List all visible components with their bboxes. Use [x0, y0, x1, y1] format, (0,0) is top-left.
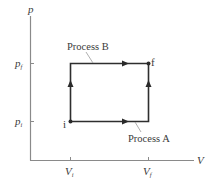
point-i-marker: [69, 120, 73, 124]
process-a-arrow-up-icon: [146, 80, 152, 87]
point-f-label: f: [151, 56, 155, 68]
x-tick-vi-label: Vi: [65, 165, 74, 178]
y-tick-pf-label: pf: [14, 57, 24, 70]
process-a-path: [71, 64, 152, 125]
process-b-arrow-up-icon: [68, 80, 74, 87]
process-a-arrow-right-icon: [122, 119, 129, 125]
x-tick-vf-label: Vf: [143, 165, 153, 178]
process-b-label: Process B: [67, 41, 109, 52]
y-tick-pi-label: pi: [14, 115, 23, 128]
y-axis-label: p: [27, 3, 34, 15]
pv-diagram: p V pf pi Vi Vf i f Process B Process A: [0, 0, 213, 187]
point-i-label: i: [63, 118, 66, 130]
process-b-arrow-right-icon: [122, 61, 129, 67]
process-a-leader: [135, 122, 141, 132]
point-f-marker: [147, 62, 151, 66]
process-b-path: [68, 61, 149, 122]
process-b-leader: [86, 52, 93, 63]
x-axis-label: V: [197, 154, 205, 166]
process-a-label: Process A: [128, 133, 170, 144]
